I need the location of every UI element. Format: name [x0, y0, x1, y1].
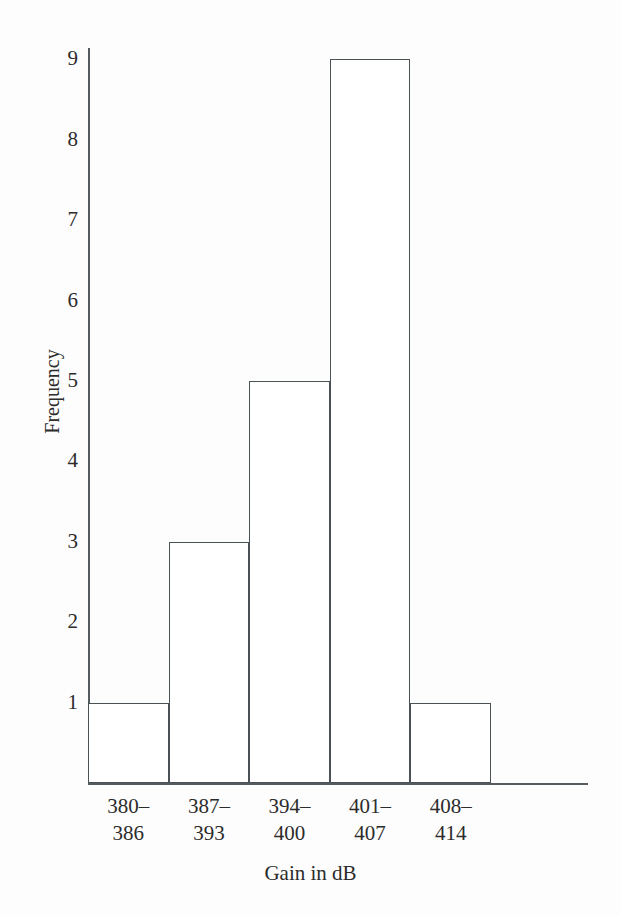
- y-axis-line: [88, 48, 90, 785]
- x-tick-label: 387–393: [169, 793, 250, 847]
- y-tick-label: 3: [48, 531, 78, 552]
- y-tick-label: 8: [48, 129, 78, 150]
- x-tick-label-line: 400: [249, 820, 330, 847]
- x-tick-label-line: 380–: [88, 793, 169, 820]
- x-tick-label-line: 386: [88, 820, 169, 847]
- x-tick-label: 380–386: [88, 793, 169, 847]
- x-tick-label: 401–407: [330, 793, 411, 847]
- x-tick-label-line: 393: [169, 820, 250, 847]
- y-tick-label: 2: [48, 611, 78, 632]
- y-tick-label: 6: [48, 290, 78, 311]
- x-tick-label: 394–400: [249, 793, 330, 847]
- y-axis-title: Frequency: [41, 322, 64, 462]
- bar: [88, 703, 169, 783]
- x-axis-line: [88, 783, 588, 785]
- x-tick-label-line: 407: [330, 820, 411, 847]
- histogram-chart: 123456789 Frequency 380–386387–393394–40…: [0, 0, 621, 915]
- bar: [330, 59, 411, 783]
- x-tick-label: 408–414: [410, 793, 491, 847]
- y-tick-label: 7: [48, 209, 78, 230]
- x-tick-label-line: 414: [410, 820, 491, 847]
- bar: [410, 703, 491, 783]
- x-axis-title: Gain in dB: [0, 861, 621, 886]
- x-tick-label-line: 394–: [249, 793, 330, 820]
- bar: [249, 381, 330, 783]
- bar: [169, 542, 250, 783]
- x-tick-label-line: 401–: [330, 793, 411, 820]
- y-tick-label: 1: [48, 692, 78, 713]
- x-tick-label-line: 387–: [169, 793, 250, 820]
- x-tick-label-line: 408–: [410, 793, 491, 820]
- y-tick-label: 9: [48, 48, 78, 69]
